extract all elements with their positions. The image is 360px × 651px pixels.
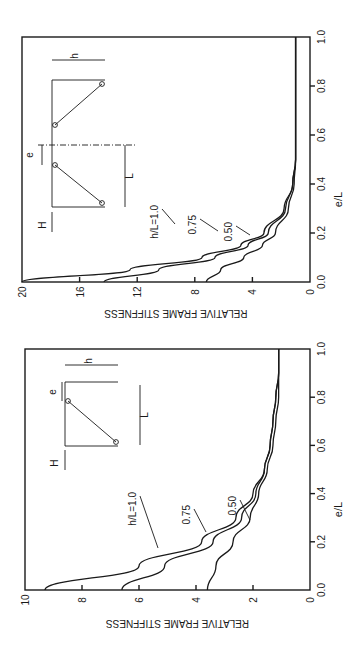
x-tick-label: 0.2	[316, 534, 327, 548]
series-curve-0	[45, 349, 279, 590]
series-label: 0.75	[181, 505, 192, 525]
load-label-H: H	[37, 221, 48, 228]
y-tick-label: 2	[248, 597, 259, 603]
dim-label-e: e	[24, 152, 35, 158]
x-tick-label: 0.8	[316, 390, 327, 404]
y-tick-label: 8	[190, 289, 201, 295]
y-tick-label: 10	[20, 594, 31, 606]
x-tick-label: 1.0	[316, 342, 327, 356]
series-curve-1	[104, 37, 296, 282]
brace	[68, 401, 116, 442]
y-tick-label: 8	[77, 597, 88, 603]
series-curve-2	[206, 37, 295, 282]
y-tick-label: 12	[132, 286, 143, 298]
frame-diagram-inset: hLeH	[47, 358, 150, 470]
y-tick-label: 6	[134, 597, 145, 603]
series-leader-line	[200, 219, 218, 231]
dim-label-L: L	[124, 173, 135, 179]
x-tick-label: 0.6	[316, 128, 327, 142]
series-curve-0	[22, 37, 296, 282]
dim-label-L: L	[139, 412, 150, 418]
x-axis-title: e/L	[332, 502, 344, 517]
brace	[55, 84, 102, 125]
series-curve-2	[207, 349, 278, 590]
figure: 0481216200.00.20.40.60.81.0RELATIVE FRAM…	[0, 0, 360, 651]
series-label: 0.50	[223, 222, 234, 242]
x-axis-title: e/L	[332, 192, 344, 207]
load-label-H: H	[49, 459, 60, 466]
x-tick-label: 0.4	[316, 486, 327, 500]
series-leader-line	[236, 226, 250, 235]
x-tick-label: 0.6	[316, 438, 327, 452]
brace	[55, 165, 102, 203]
y-tick-label: 4	[247, 289, 258, 295]
series-leader-line	[194, 509, 206, 532]
x-tick-label: 0.4	[316, 177, 327, 191]
chart-panel-upper: 0481216200.00.20.40.60.81.0RELATIVE FRAM…	[17, 30, 344, 319]
x-tick-label: 1.0	[316, 30, 327, 44]
x-tick-label: 0.0	[316, 275, 327, 289]
dim-label-e: e	[47, 389, 58, 395]
dim-label-h: h	[69, 53, 80, 59]
series-leader-line	[162, 209, 175, 224]
y-tick-label: 0	[305, 289, 316, 295]
series-label: h/L=1.0	[127, 492, 138, 526]
series-label: h/L=1.0	[149, 205, 160, 239]
chart-canvas: 0481216200.00.20.40.60.81.0RELATIVE FRAM…	[0, 0, 360, 651]
y-tick-label: 0	[305, 597, 316, 603]
y-tick-label: 20	[17, 286, 28, 298]
series-label: 0.50	[227, 496, 238, 516]
y-axis-title: RELATIVE FRAME STIFFNESS	[104, 308, 247, 319]
x-tick-label: 0.0	[316, 583, 327, 597]
series-leader-line	[140, 496, 158, 548]
series-label: 0.75	[187, 215, 198, 235]
x-tick-label: 0.2	[316, 226, 327, 240]
chart-panel-lower: 02468100.00.20.40.60.81.0RELATIVE FRAME …	[20, 342, 344, 629]
frame-diagram-inset: hLeH	[24, 53, 135, 232]
dim-label-h: h	[83, 358, 94, 364]
y-axis-title: RELATIVE FRAME STIFFNESS	[106, 618, 249, 629]
x-tick-label: 0.8	[316, 79, 327, 93]
y-tick-label: 4	[191, 597, 202, 603]
plot-frame	[22, 37, 310, 282]
y-tick-label: 16	[75, 286, 86, 298]
series-curve-1	[122, 349, 279, 590]
